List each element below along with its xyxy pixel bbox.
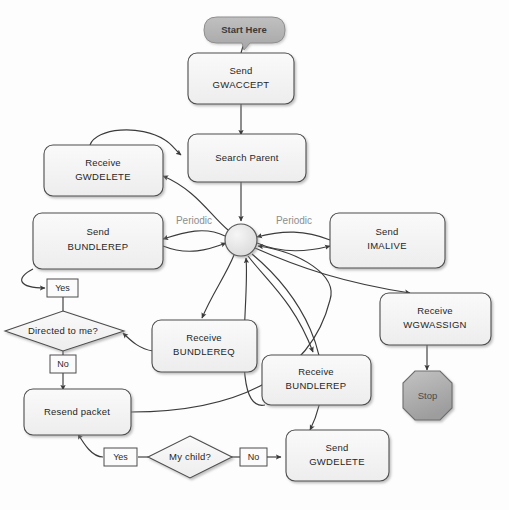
receive-wgwassign-line1: Receive bbox=[417, 305, 453, 316]
receive-gwdelete-line1: Receive bbox=[85, 157, 121, 168]
send-gwdelete-line1: Send bbox=[326, 442, 349, 453]
node-receive-bundlereq[interactable]: Receive BUNDLEREQ bbox=[152, 320, 257, 372]
receive-bundlerep-line1: Receive bbox=[298, 366, 334, 377]
edge-label-directed-yes: Yes bbox=[47, 279, 78, 297]
node-resend-packet[interactable]: Resend packet bbox=[24, 389, 131, 435]
receive-bundlereq-line2: BUNDLEREQ bbox=[173, 346, 235, 357]
start-label: Start Here bbox=[221, 24, 266, 35]
node-search-parent[interactable]: Search Parent bbox=[188, 134, 306, 182]
edge-hub-to-receive-bundlereq bbox=[202, 255, 234, 318]
receive-gwdelete-line2: GWDELETE bbox=[75, 171, 131, 182]
periodic-label-right: Periodic bbox=[276, 215, 312, 226]
flowchart-svg: Start Here Send GWACCEPT Search Parent R… bbox=[0, 0, 509, 510]
edge-send-imalive-to-hub bbox=[257, 232, 330, 240]
edge-label-mychild-yes: Yes bbox=[104, 448, 137, 466]
node-send-gwdelete[interactable]: Send GWDELETE bbox=[286, 430, 389, 481]
edge-send-bundlerep-to-yes bbox=[22, 269, 45, 288]
send-bundlerep-line1: Send bbox=[87, 226, 110, 237]
node-directed-to-me[interactable]: Directed to me? bbox=[5, 311, 124, 351]
receive-bundlerep-line2: BUNDLEREP bbox=[286, 380, 347, 391]
mychild-no-label: No bbox=[248, 452, 260, 462]
send-imalive-line1: Send bbox=[376, 226, 399, 237]
edge-receive-bundlereq-to-directed-to-me bbox=[123, 333, 153, 351]
mychild-yes-label: Yes bbox=[113, 452, 128, 462]
edge-label-mychild-no: No bbox=[240, 448, 267, 466]
node-hub[interactable] bbox=[225, 224, 257, 256]
send-gwaccept-line2: GWACCEPT bbox=[213, 79, 270, 90]
send-imalive-line2: IMALIVE bbox=[367, 240, 407, 251]
edge-label-directed-no: No bbox=[50, 355, 76, 373]
node-send-bundlerep[interactable]: Send BUNDLEREP bbox=[33, 213, 163, 269]
directed-yes-label: Yes bbox=[55, 283, 70, 293]
my-child-label: My child? bbox=[169, 451, 211, 462]
edge-hub-to-send-bundlerep bbox=[163, 231, 225, 239]
periodic-label-left: Periodic bbox=[176, 215, 212, 226]
edge-yes-to-resend-packet bbox=[78, 434, 103, 457]
node-receive-wgwassign[interactable]: Receive WGWASSIGN bbox=[380, 293, 491, 345]
flowchart-canvas: Start Here Send GWACCEPT Search Parent R… bbox=[0, 0, 509, 510]
hub-circle bbox=[225, 224, 257, 256]
send-gwaccept-line1: Send bbox=[230, 65, 253, 76]
send-gwdelete-line2: GWDELETE bbox=[309, 456, 365, 467]
node-send-imalive[interactable]: Send IMALIVE bbox=[330, 213, 445, 268]
stop-label: Stop bbox=[418, 390, 438, 401]
directed-no-label: No bbox=[57, 359, 69, 369]
receive-bundlereq-line1: Receive bbox=[186, 332, 222, 343]
node-receive-gwdelete[interactable]: Receive GWDELETE bbox=[44, 145, 163, 196]
edge-hub-to-send-imalive bbox=[257, 243, 330, 251]
node-receive-bundlerep[interactable]: Receive BUNDLEREP bbox=[262, 355, 371, 405]
directed-to-me-label: Directed to me? bbox=[28, 325, 98, 336]
node-start[interactable]: Start Here bbox=[204, 17, 285, 50]
resend-packet-label: Resend packet bbox=[44, 406, 110, 417]
node-stop[interactable]: Stop bbox=[403, 371, 452, 420]
search-parent-label: Search Parent bbox=[215, 152, 278, 163]
node-send-gwaccept[interactable]: Send GWACCEPT bbox=[188, 53, 294, 104]
edge-send-bundlerep-to-hub bbox=[163, 243, 226, 251]
send-bundlerep-line2: BUNDLEREP bbox=[68, 241, 129, 252]
receive-wgwassign-line2: WGWASSIGN bbox=[403, 319, 467, 330]
edge-hub-to-receive-bundlerep bbox=[248, 256, 313, 352]
node-my-child[interactable]: My child? bbox=[148, 436, 232, 478]
